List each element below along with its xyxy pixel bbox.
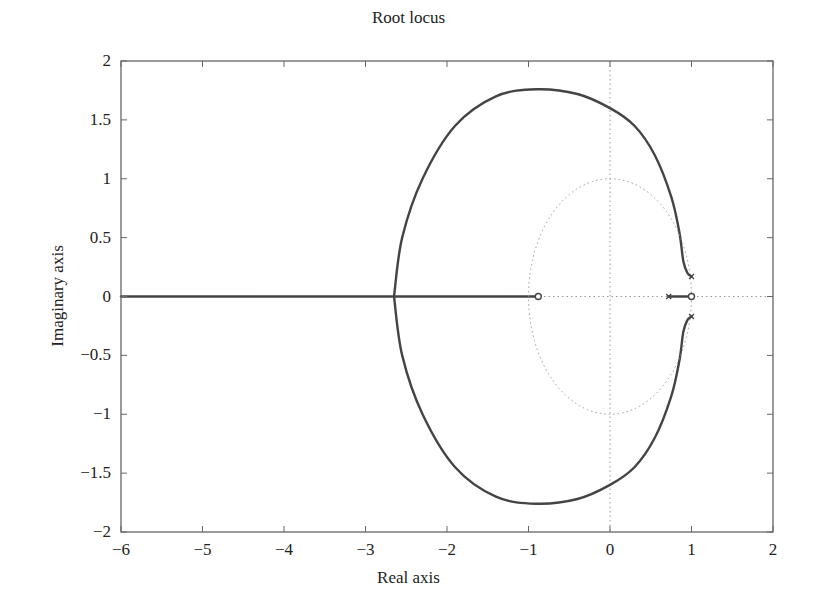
chart-title: Root locus (0, 8, 817, 28)
y-axis-label: Imaginary axis (48, 245, 68, 347)
x-tick-label: 1 (687, 540, 696, 560)
locus-branch (394, 89, 691, 296)
zero-marker-icon (535, 294, 541, 300)
x-tick-label: −2 (438, 540, 456, 560)
x-tick-label: 2 (769, 540, 778, 560)
y-tick-label: 0 (103, 287, 112, 307)
zero-marker-icon (689, 294, 695, 300)
x-axis-label: Real axis (0, 568, 817, 588)
y-tick-label: −1.5 (80, 463, 111, 483)
y-tick-label: 2 (103, 51, 112, 71)
locus-branches (121, 89, 692, 504)
x-tick-label: −5 (193, 540, 211, 560)
y-tick-label: −2 (93, 522, 111, 542)
x-tick-label: −3 (356, 540, 374, 560)
x-tick-label: −6 (112, 540, 130, 560)
locus-branch (394, 297, 691, 504)
x-tick-label: 0 (606, 540, 615, 560)
y-tick-label: −0.5 (80, 345, 111, 365)
x-tick-label: −4 (275, 540, 293, 560)
y-tick-label: −1 (93, 404, 111, 424)
x-tick-label: −1 (519, 540, 537, 560)
y-tick-label: 1 (103, 169, 112, 189)
y-tick-label: 1.5 (90, 110, 111, 130)
y-tick-label: 0.5 (90, 228, 111, 248)
root-locus-chart (0, 0, 817, 614)
